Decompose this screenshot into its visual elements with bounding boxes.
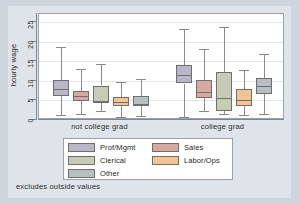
legend-item[interactable]: Sales xyxy=(152,141,220,153)
legend-swatch xyxy=(152,156,179,165)
y-axis-line xyxy=(36,13,37,120)
legend-item[interactable]: Clerical xyxy=(68,154,136,166)
x-axis-group-label: college grad xyxy=(161,122,284,131)
legend-item[interactable]: Other xyxy=(68,167,136,179)
legend-swatch xyxy=(68,156,95,165)
y-axis-tick-label-text: 25 xyxy=(27,20,34,28)
y-axis-tick-label-text: 0 xyxy=(27,119,34,123)
gridline xyxy=(39,120,283,121)
y-axis-tick-label-text: 15 xyxy=(27,60,34,68)
whisker-cap-lower xyxy=(259,114,269,115)
boxplot-series-layer xyxy=(39,14,283,118)
boxplot-box xyxy=(39,14,283,118)
median-line xyxy=(256,86,272,87)
legend-item-label: Clerical xyxy=(100,156,126,165)
legend-item-label: Other xyxy=(100,169,119,178)
y-axis-tick-label: 0 xyxy=(16,115,30,123)
plot-area xyxy=(38,13,284,119)
legend-item[interactable]: Labor/Ops xyxy=(152,154,220,166)
legend-item-label: Prof/Mgmt xyxy=(100,143,136,152)
legend-swatch xyxy=(68,143,95,152)
legend-item[interactable]: Prof/Mgmt xyxy=(68,141,136,153)
legend: Prof/MgmtClericalOther SalesLabor/Ops xyxy=(63,138,233,180)
legend-column-right: SalesLabor/Ops xyxy=(152,141,220,167)
boxplot-figure: 0510152025 hourly wage not college gradc… xyxy=(0,0,299,204)
y-axis-tick-label-text: 10 xyxy=(27,79,34,87)
y-axis-tick-label: 10 xyxy=(16,76,30,84)
legend-swatch xyxy=(68,169,95,178)
y-axis-tick-label-text: 5 xyxy=(27,99,34,103)
legend-item-label: Sales xyxy=(184,143,203,152)
y-axis-tick-label: 15 xyxy=(16,56,30,64)
whisker-cap-upper xyxy=(259,54,269,55)
legend-column-left: Prof/MgmtClericalOther xyxy=(68,141,136,180)
legend-swatch xyxy=(152,143,179,152)
y-axis-tick-label: 5 xyxy=(16,95,30,103)
y-axis-tick-label: 25 xyxy=(16,17,30,25)
y-axis-title: hourly wage xyxy=(8,30,18,100)
y-axis-tick-label-text: 20 xyxy=(27,40,34,48)
footnote: excludes outside values xyxy=(16,182,100,191)
x-axis-line xyxy=(38,119,284,120)
whisker-lower xyxy=(264,94,265,114)
x-axis-group-label: not college grad xyxy=(38,122,161,131)
y-axis-tick-label: 20 xyxy=(16,37,30,45)
whisker-upper xyxy=(264,54,265,78)
legend-item-label: Labor/Ops xyxy=(184,156,220,165)
y-axis-title-label: hourly wage xyxy=(9,44,18,87)
